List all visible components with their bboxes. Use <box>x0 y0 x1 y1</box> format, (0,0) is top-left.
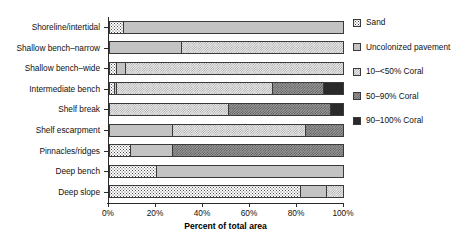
bar-segment-coral-90-100 <box>324 83 343 94</box>
stacked-bar <box>109 21 344 34</box>
y-tick-mark <box>104 151 108 152</box>
bar-segment-sand <box>110 145 131 156</box>
legend-item-coral-10-50[interactable]: 10–<50% Coral <box>353 67 423 76</box>
y-tick-mark <box>104 68 108 69</box>
x-tick-mark <box>249 203 250 207</box>
legend-swatch-icon <box>353 68 361 76</box>
bar-row <box>109 41 344 54</box>
bar-segment-coral-50-90 <box>173 145 343 156</box>
x-tick-label: 100% <box>323 208 363 218</box>
chart-legend: SandUncolonized pavement10–<50% Coral50–… <box>353 18 463 138</box>
stacked-bar-chart: Shoreline/intertidalShallow bench–narrow… <box>0 0 464 246</box>
bar-segment-sand <box>110 22 124 33</box>
x-axis-line <box>107 203 344 204</box>
x-axis-title: Percent of total area <box>108 221 343 231</box>
category-label: Shallow bench–wide <box>0 63 100 73</box>
bar-row <box>109 82 344 95</box>
y-tick-mark <box>104 27 108 28</box>
bar-segment-coral-50-90 <box>229 104 332 115</box>
category-label: Intermediate bench <box>0 84 100 94</box>
stacked-bar <box>109 103 344 116</box>
category-label: Shelf break <box>0 104 100 114</box>
stacked-bar <box>109 82 344 95</box>
bar-segment-coral-10-50 <box>327 186 343 197</box>
bar-segment-coral-10-50 <box>173 125 306 136</box>
legend-item-sand[interactable]: Sand <box>353 18 385 27</box>
bar-segment-coral-50-90 <box>273 83 324 94</box>
legend-swatch-icon <box>353 19 361 27</box>
stacked-bar <box>109 185 344 198</box>
legend-label: 50–90% Coral <box>366 92 419 101</box>
y-tick-mark <box>104 192 108 193</box>
legend-label: Uncolonized pavement <box>366 43 450 52</box>
y-tick-mark <box>104 171 108 172</box>
bar-segment-uncolonized-pavement <box>301 186 327 197</box>
stacked-bar <box>109 165 344 178</box>
bar-segment-uncolonized-pavement <box>110 42 182 53</box>
legend-label: Sand <box>366 18 385 27</box>
x-tick-mark <box>202 203 203 207</box>
bar-segment-coral-10-50 <box>182 42 343 53</box>
bar-segment-uncolonized-pavement <box>157 166 343 177</box>
bar-row <box>109 21 344 34</box>
bar-segment-coral-10-50 <box>110 104 229 115</box>
stacked-bar <box>109 41 344 54</box>
y-tick-mark <box>104 89 108 90</box>
y-tick-mark <box>104 48 108 49</box>
legend-swatch-icon <box>353 43 361 51</box>
x-tick-mark <box>296 203 297 207</box>
legend-label: 90–100% Coral <box>366 116 423 125</box>
legend-swatch-icon <box>353 92 361 100</box>
stacked-bar <box>109 144 344 157</box>
plot-area <box>108 17 344 203</box>
x-tick-label: 80% <box>276 208 316 218</box>
category-label: Shallow bench–narrow <box>0 43 100 53</box>
legend-item-uncolonized-pavement[interactable]: Uncolonized pavement <box>353 43 450 52</box>
stacked-bar <box>109 124 344 137</box>
category-label: Deep slope <box>0 187 100 197</box>
bar-segment-uncolonized-pavement <box>124 22 343 33</box>
bar-segment-sand <box>110 186 301 197</box>
x-tick-label: 40% <box>182 208 222 218</box>
bar-row <box>109 185 344 198</box>
x-tick-label: 20% <box>135 208 175 218</box>
category-label: Shelf escarpment <box>0 125 100 135</box>
bar-segment-sand <box>110 63 117 74</box>
bar-row <box>109 144 344 157</box>
legend-item-coral-90-100[interactable]: 90–100% Coral <box>353 116 423 125</box>
bar-segment-coral-90-100 <box>331 104 343 115</box>
category-label: Pinnacles/ridges <box>0 146 100 156</box>
category-label: Deep bench <box>0 166 100 176</box>
y-tick-mark <box>104 130 108 131</box>
x-tick-mark <box>155 203 156 207</box>
x-tick-mark <box>343 203 344 207</box>
bar-segment-coral-10-50 <box>126 63 343 74</box>
bar-row <box>109 62 344 75</box>
legend-label: 10–<50% Coral <box>366 67 423 76</box>
bar-segment-uncolonized-pavement <box>110 125 173 136</box>
bar-segment-sand <box>110 166 157 177</box>
bar-row <box>109 103 344 116</box>
bar-row <box>109 124 344 137</box>
category-axis: Shoreline/intertidalShallow bench–narrow… <box>0 17 104 203</box>
legend-swatch-icon <box>353 117 361 125</box>
x-tick-label: 0% <box>88 208 128 218</box>
bar-segment-uncolonized-pavement <box>131 145 173 156</box>
bar-segment-uncolonized-pavement <box>117 63 126 74</box>
x-tick-mark <box>108 203 109 207</box>
bar-segment-coral-10-50 <box>117 83 273 94</box>
stacked-bar <box>109 62 344 75</box>
legend-item-coral-50-90[interactable]: 50–90% Coral <box>353 92 419 101</box>
y-tick-mark <box>104 109 108 110</box>
bar-row <box>109 165 344 178</box>
category-label: Shoreline/intertidal <box>0 22 100 32</box>
bar-segment-coral-50-90 <box>306 125 343 136</box>
x-tick-label: 60% <box>229 208 269 218</box>
